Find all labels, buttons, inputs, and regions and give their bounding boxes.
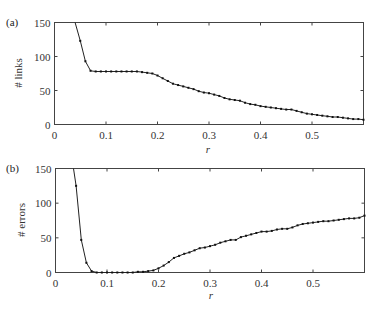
x-tick-label: 0.3 [202,129,216,141]
panel-b-y-tick-labels: 050100150 [35,163,52,279]
data-point [342,117,344,119]
data-point [120,70,122,72]
panel-a-x-axis-label: r [206,143,211,155]
data-point [141,71,143,73]
data-point [234,99,236,101]
data-point [162,77,164,79]
data-point [100,70,102,72]
data-point [255,232,257,234]
data-point [204,247,206,249]
data-point [209,245,211,247]
data-point [158,267,160,269]
x-tick-label: 0.5 [306,277,320,289]
data-point [106,272,108,274]
data-point [230,239,232,241]
x-tick-label: 0.1 [100,277,114,289]
x-tick-label: 0.1 [99,129,113,141]
data-point [265,106,267,108]
y-tick-label: 0 [45,119,51,131]
panel-b-plot-frame [56,169,365,273]
x-tick-label: 0.2 [151,129,165,141]
panel-b-x-tick-labels: 00.10.20.30.40.5 [53,277,321,289]
data-point [281,228,283,230]
data-point [311,113,313,115]
y-tick-label: 0 [46,267,52,279]
data-point [188,251,190,253]
data-point [95,70,97,72]
x-tick-label: 0.4 [255,277,269,289]
data-point [80,239,82,241]
data-point [137,271,139,273]
data-point [249,103,251,105]
data-point [132,272,134,274]
data-point [338,219,340,221]
x-tick-label: 0 [52,129,58,141]
data-point [105,70,107,72]
data-point [223,97,225,99]
data-point [266,231,268,233]
panel-b-data-points [75,185,365,274]
y-tick-label: 100 [34,51,51,63]
data-point [347,117,349,119]
data-point [321,115,323,117]
data-point [285,109,287,111]
data-point [198,90,200,92]
data-point [358,217,360,219]
data-point [235,239,237,241]
data-point [291,226,293,228]
figure: (a) 050100150 00.10.20.30.40.5 # links r… [0,0,383,311]
data-point [203,92,205,94]
x-tick-label: 0.3 [203,277,217,289]
data-point [326,115,328,117]
data-point [178,255,180,257]
data-point [312,222,314,224]
data-point [357,118,359,120]
data-point [131,70,133,72]
data-point [151,73,153,75]
data-point [270,107,272,109]
data-point [245,235,247,237]
panel-b-x-axis-label: r [209,289,214,301]
data-point [115,70,117,72]
data-point [280,108,282,110]
data-point [333,220,335,222]
data-point [177,84,179,86]
data-point [167,80,169,82]
panel-b-label: (b) [6,162,19,175]
data-point [75,185,77,187]
data-point [126,70,128,72]
x-tick-label: 0.5 [305,129,319,141]
data-point [213,94,215,96]
x-tick-label: 0.2 [152,277,166,289]
data-point [302,223,304,225]
data-point [187,87,189,89]
data-point [239,100,241,102]
data-point [214,244,216,246]
data-point [271,230,273,232]
data-point [286,228,288,230]
data-point [229,98,231,100]
data-point [219,242,221,244]
data-point [193,88,195,90]
panel-a-plot-frame [55,23,364,125]
data-point [327,220,329,222]
data-point [199,247,201,249]
data-point [90,70,92,72]
y-tick-label: 50 [41,232,53,244]
data-point [147,270,149,272]
data-point [152,269,154,271]
data-point [168,261,170,263]
data-point [121,272,123,274]
panel-a-data-points [79,40,364,121]
panel-b-ticks [56,169,365,273]
data-point [364,215,366,217]
data-point [79,40,81,42]
panel-a-x-tick-labels: 00.10.20.30.40.5 [52,129,320,141]
panel-b-errors: (b) 050100150 00.10.20.30.40.5 # errors … [6,162,366,301]
data-point [301,111,303,113]
data-point [275,107,277,109]
data-point [307,222,309,224]
data-point [332,116,334,118]
panel-a-y-tick-labels: 050100150 [34,17,51,131]
data-point [127,272,129,274]
